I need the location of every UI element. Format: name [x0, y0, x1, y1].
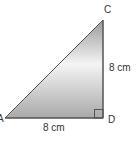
vertex-label-c: C — [104, 4, 111, 15]
vertex-label-a: A — [0, 113, 4, 124]
side-label-cd: 8 cm — [109, 62, 131, 73]
triangle-diagram: A C D 8 cm 8 cm — [0, 0, 137, 143]
vertex-label-d: D — [108, 114, 115, 125]
side-label-ad: 8 cm — [43, 122, 65, 133]
